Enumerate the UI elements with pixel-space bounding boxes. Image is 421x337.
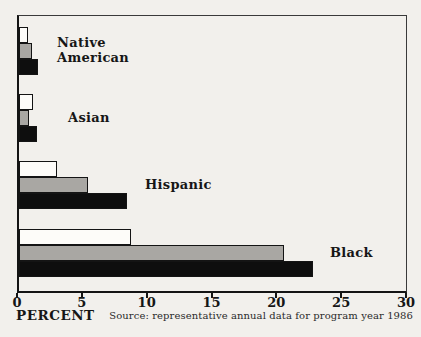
bar-chart-figure: 051015202530 PERCENT Source: representat… <box>0 0 421 337</box>
bar-hispanic-white <box>19 161 57 177</box>
x-tick-label-25: 25 <box>332 295 350 310</box>
bar-native-american-black <box>19 59 38 75</box>
x-tick-label-20: 20 <box>267 295 285 310</box>
x-tick-label-15: 15 <box>202 295 220 310</box>
x-axis-label: PERCENT <box>16 307 95 323</box>
category-label-native-american: NativeAmerican <box>57 36 129 66</box>
bar-hispanic-black <box>19 193 127 209</box>
x-tick-label-30: 30 <box>397 295 415 310</box>
category-label-black: Black <box>330 246 373 261</box>
bar-asian-black <box>19 126 37 142</box>
bar-black-gray <box>19 245 284 261</box>
category-label-asian: Asian <box>68 111 110 126</box>
bar-asian-white <box>19 94 33 110</box>
bar-native-american-white <box>19 27 28 43</box>
bar-native-american-gray <box>19 43 32 59</box>
source-note: Source: representative annual data for p… <box>109 310 413 321</box>
bar-black-black <box>19 261 313 277</box>
bar-asian-gray <box>19 110 29 126</box>
bar-black-white <box>19 229 131 245</box>
category-label-hispanic: Hispanic <box>145 178 212 193</box>
bar-hispanic-gray <box>19 177 88 193</box>
x-tick-label-10: 10 <box>138 295 156 310</box>
